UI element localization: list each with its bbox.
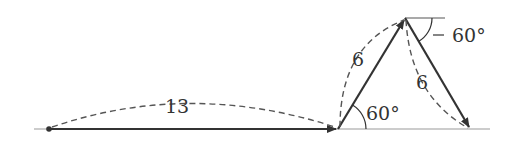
label-13: 13 — [165, 95, 189, 117]
label-6-up: 6 — [352, 48, 364, 70]
dashed-arc-13 — [52, 104, 335, 128]
angle-arc-apex — [419, 18, 433, 42]
label-angle-bottom: 60° — [366, 102, 400, 124]
label-6-down: 6 — [416, 71, 428, 93]
label-angle-apex: 60° — [452, 24, 486, 46]
vector-diagram: 13 6 6 60° 60° — [0, 0, 518, 150]
angle-arc-bottom — [353, 105, 367, 129]
start-point — [46, 126, 52, 132]
